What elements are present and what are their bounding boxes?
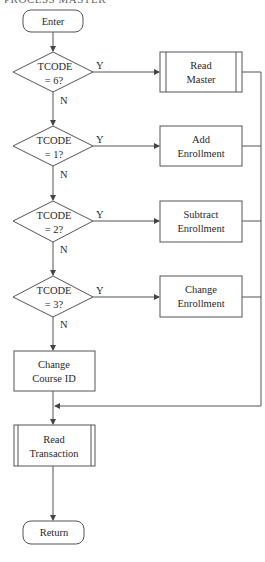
node-change-course-id: Change Course ID (14, 351, 95, 391)
node-return: Return (23, 521, 84, 544)
decision-line1: TCODE (37, 210, 72, 221)
process-shape (160, 276, 242, 317)
return-label: Return (40, 527, 69, 538)
no-label-d4: N (60, 319, 68, 330)
yes-label-d3: Y (96, 209, 104, 220)
read-master-line1: Read (190, 60, 212, 71)
decision-diamond (13, 276, 93, 317)
decision-line1: TCODE (38, 61, 73, 72)
change-course-line1: Change (38, 359, 70, 370)
edge-read-master-return-bus (242, 72, 261, 406)
node-read-master: Read Master (160, 52, 242, 92)
read-trans-line2: Transaction (29, 448, 79, 459)
decision-line1: TCODE (37, 285, 72, 296)
node-enter: Enter (23, 10, 83, 32)
decision-line2: = 2? (45, 224, 64, 235)
change-enroll-line2: Enrollment (177, 298, 224, 309)
node-change-enrollment: Change Enrollment (160, 276, 242, 317)
process-shape (160, 126, 242, 166)
decision-diamond (13, 126, 93, 166)
process-shape (160, 201, 242, 242)
yes-label-d4: Y (96, 285, 104, 296)
decision-diamond (13, 201, 93, 242)
decision-line2: = 6? (45, 75, 64, 86)
enter-label: Enter (42, 16, 65, 27)
flowchart: Y N Y N Y N Y N Enter TCODE = 6? Read Ma… (0, 0, 265, 562)
predefined-process-shape (160, 52, 242, 92)
subtract-line2: Enrollment (177, 223, 224, 234)
node-add-enrollment: Add Enrollment (160, 126, 242, 166)
add-line2: Enrollment (177, 148, 224, 159)
change-course-line2: Course ID (32, 373, 76, 384)
decision-line1: TCODE (37, 135, 72, 146)
change-enroll-line1: Change (185, 284, 217, 295)
node-decision-tcode-3: TCODE = 3? (13, 276, 93, 317)
process-shape (14, 351, 95, 391)
node-read-transaction: Read Transaction (14, 425, 95, 466)
read-master-line2: Master (186, 74, 216, 85)
no-label-d3: N (60, 244, 68, 255)
subtract-line1: Subtract (184, 209, 219, 220)
node-decision-tcode-1: TCODE = 1? (13, 126, 93, 166)
read-trans-line1: Read (43, 434, 65, 445)
decision-line2: = 1? (45, 149, 64, 160)
add-line1: Add (192, 134, 211, 145)
node-subtract-enrollment: Subtract Enrollment (160, 201, 242, 242)
node-decision-tcode-2: TCODE = 2? (13, 201, 93, 242)
yes-label-d1: Y (96, 60, 104, 71)
decision-diamond (13, 52, 93, 92)
yes-label-d2: Y (96, 134, 104, 145)
node-decision-tcode-6: TCODE = 6? (13, 52, 93, 92)
no-label-d2: N (60, 169, 68, 180)
decision-line2: = 3? (45, 299, 64, 310)
no-label-d1: N (60, 95, 68, 106)
predefined-process-shape (14, 425, 95, 466)
